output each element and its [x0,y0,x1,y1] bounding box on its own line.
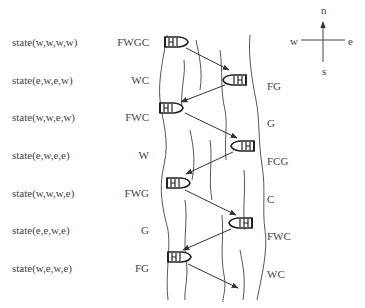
boat-icon [231,141,254,151]
boat-icon [229,218,252,228]
boat-icon [168,252,191,262]
boat-icon [223,75,246,85]
compass-rose-icon [301,22,345,62]
boat-icon [167,178,190,188]
boat-icon [165,37,188,47]
river-crossing-diagram [0,0,365,308]
boat-icon [160,103,183,113]
